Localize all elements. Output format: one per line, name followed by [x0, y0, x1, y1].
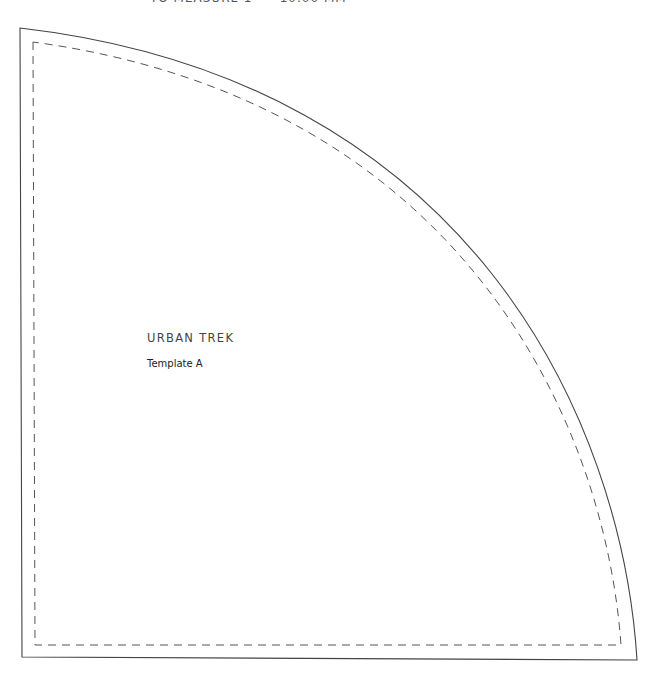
quarter-circle-template — [0, 0, 653, 682]
template-title: URBAN TREK — [147, 331, 234, 345]
seam-allowance-line — [33, 42, 621, 645]
cut-line — [20, 28, 637, 660]
template-subtitle: Template A — [147, 358, 203, 369]
